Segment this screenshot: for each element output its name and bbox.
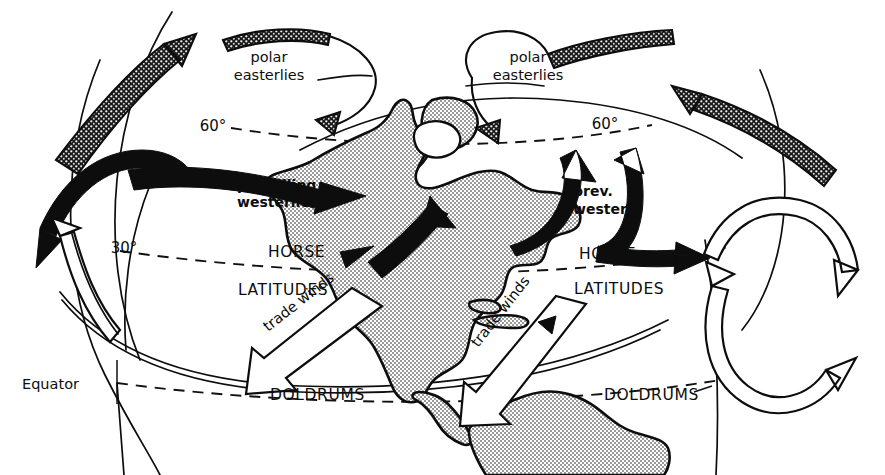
hudson-bay <box>414 121 460 157</box>
polar-easterlies-arrowhead-center <box>476 120 500 143</box>
polar-easterlies-left-line2: easterlies <box>234 67 304 83</box>
polar-easterlies-arrowhead-left <box>316 112 340 135</box>
prev-westerl-line1: prev. <box>573 183 613 199</box>
lat-60-right-label: 60° <box>592 115 619 133</box>
doldrums-right-label: DOLDRUMS <box>604 386 699 404</box>
prevailing-westerlies-line2: westerlies <box>237 194 318 210</box>
polar-easterlies-right-line2: easterlies <box>493 67 563 83</box>
polar-easterlies-arrow-left <box>223 29 330 51</box>
horse-left-line1: HORSE <box>268 243 325 261</box>
horse-right-line2: LATITUDES <box>574 280 664 298</box>
polar-easterlies-band-right <box>548 30 674 68</box>
prev-westerl-line2: westerl. <box>573 201 637 217</box>
horse-right-line1: HORSE <box>579 245 636 263</box>
polar-easterlies-left-line1: polar <box>251 49 288 65</box>
polar-cell-arrow-upright <box>672 86 836 186</box>
prevailing-westerlies-line1: prevailing <box>237 177 316 193</box>
ferrel-cell-right <box>704 198 858 296</box>
meridian-center-lower <box>117 383 124 475</box>
label-prevailing-westerlies: prevailing westerlies <box>237 177 318 210</box>
polar-easterlies-leader-left <box>318 75 372 80</box>
trade-winds-arrow-left <box>246 288 382 394</box>
label-polar-easterlies-left: polar easterlies <box>234 49 304 83</box>
hadley-cell-right <box>705 262 856 413</box>
polar-easterlies-leader-center <box>466 83 544 86</box>
global-circulation-diagram: polar easterlies polar easterlies 60° 60… <box>0 0 885 475</box>
diagram-canvas: polar easterlies polar easterlies 60° 60… <box>0 0 885 475</box>
doldrums-left-label: DOLDRUMS <box>270 386 365 404</box>
lat-30-left-label: 30° <box>111 239 138 257</box>
equator-label: Equator <box>22 376 79 392</box>
lat-60-left-label: 60° <box>200 117 227 135</box>
polar-easterlies-right-line1: polar <box>510 49 547 65</box>
